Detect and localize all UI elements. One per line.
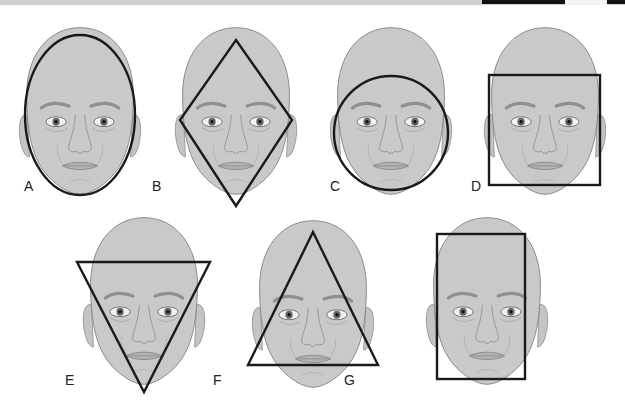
panel-label-g: G (344, 373, 355, 387)
face-shapes-figure (0, 0, 625, 408)
panel-f (248, 221, 378, 388)
face-illustration-b (175, 28, 296, 195)
panel-label-a: A (24, 179, 33, 193)
panel-c (330, 28, 451, 195)
panel-label-e: E (65, 373, 74, 387)
faded-caption-strip (90, 398, 610, 406)
panel-label-f: F (213, 373, 222, 387)
face-illustration-e (83, 218, 204, 385)
face-illustration-f (252, 221, 373, 388)
panel-e (77, 218, 210, 392)
panel-g (426, 218, 547, 385)
panel-label-b: B (152, 179, 161, 193)
face-illustration-d (484, 28, 605, 195)
face-illustration-a (19, 28, 140, 195)
panel-d (484, 28, 605, 195)
panel-b (175, 28, 296, 206)
panel-label-d: D (471, 179, 481, 193)
face-illustration-g (426, 218, 547, 385)
panel-label-c: C (330, 179, 340, 193)
panel-a (19, 28, 140, 195)
